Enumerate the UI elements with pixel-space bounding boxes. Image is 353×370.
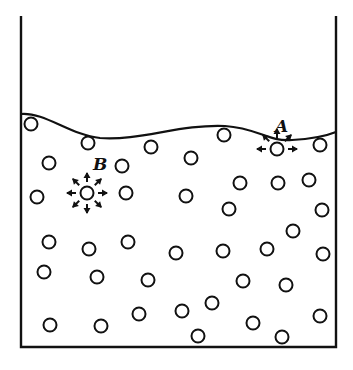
molecule-circle [316,204,329,217]
molecule-circle [43,236,56,249]
molecule-circle [145,141,158,154]
molecule-circle [217,245,230,258]
molecule-circle [91,271,104,284]
molecule-circle [43,157,56,170]
molecule-circle [83,243,96,256]
molecule-circle [223,203,236,216]
label-a: A [273,116,288,136]
molecule-circle [192,330,205,343]
molecule-circle [38,266,51,279]
molecule-circle [261,243,274,256]
molecule-circle [180,190,193,203]
molecule-circle [276,331,289,344]
molecule-circle [218,129,231,142]
container-walls [21,16,336,347]
molecule-circle [234,177,247,190]
molecule-circle [303,174,316,187]
molecule-circle [120,187,133,200]
molecule-circle [185,152,198,165]
molecule-circle [272,177,285,190]
molecule-circle [314,139,327,152]
molecule-circle [44,319,57,332]
molecule-circle [237,275,250,288]
molecule-circle [31,191,44,204]
molecule-circle [170,247,183,260]
molecule-circle [116,160,129,173]
molecule-circle [287,225,300,238]
molecule-circle [176,305,189,318]
label-b: B [92,154,107,174]
molecule-b [66,172,108,214]
molecule-circle [142,274,155,287]
molecule-circle [317,248,330,261]
molecule-circle [280,279,293,292]
molecule-circle [25,118,38,131]
molecule-circle [133,308,146,321]
molecule-circle [95,320,108,333]
molecule-circle [82,137,95,150]
molecule-circle [206,297,219,310]
molecule-circle [247,317,260,330]
molecule-circle [122,236,135,249]
liquid-container-diagram: AB [0,0,353,370]
molecule-circle [314,310,327,323]
beaker-container [21,16,336,347]
